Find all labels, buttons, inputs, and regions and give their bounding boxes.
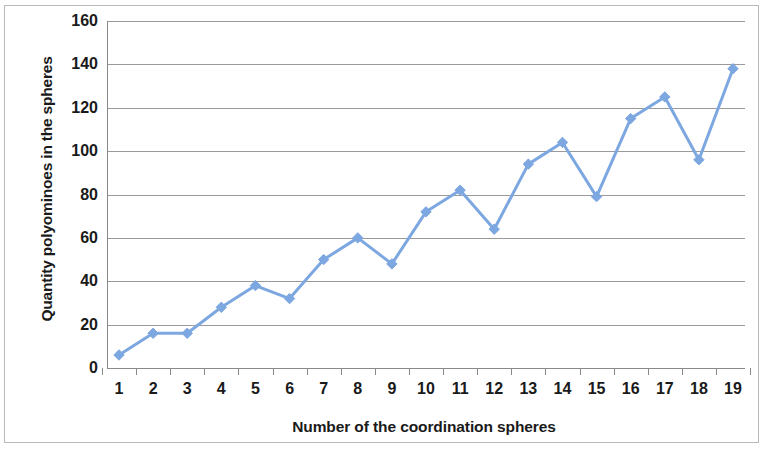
x-tick-10 (409, 368, 410, 375)
y-tick-label-120: 120 (40, 99, 98, 117)
y-tick-label-20: 20 (40, 316, 98, 334)
x-tick-15 (580, 368, 581, 375)
x-tick-label-19: 19 (713, 380, 753, 398)
x-tick-1 (102, 368, 103, 375)
x-axis-tick-labels: 12345678910111213141516171819 (107, 380, 745, 404)
y-tick-label-100: 100 (40, 142, 98, 160)
y-tick-label-40: 40 (40, 272, 98, 290)
y-axis-tick-labels: 020406080100120140160 (36, 21, 98, 368)
y-tick-label-60: 60 (40, 229, 98, 247)
y-tick-label-140: 140 (40, 55, 98, 73)
chart-figure: Quantity polyominoes in the spheres 0204… (0, 0, 766, 452)
x-tick-7 (307, 368, 308, 375)
x-tick-8 (341, 368, 342, 375)
y-tick-label-0: 0 (40, 359, 98, 377)
x-tick-3 (170, 368, 171, 375)
data-series-line (107, 21, 745, 368)
x-tick-17 (648, 368, 649, 375)
x-tick-13 (511, 368, 512, 375)
x-tick-19 (716, 368, 717, 375)
x-tick-4 (204, 368, 205, 375)
x-tick-9 (375, 368, 376, 375)
x-axis-ticks (107, 368, 745, 376)
y-tick-label-80: 80 (40, 186, 98, 204)
x-tick-12 (477, 368, 478, 375)
x-tick-2 (136, 368, 137, 375)
x-tick-end (750, 368, 751, 375)
x-tick-11 (443, 368, 444, 375)
x-tick-18 (682, 368, 683, 375)
data-point-marker (728, 64, 738, 74)
x-tick-16 (614, 368, 615, 375)
x-tick-14 (545, 368, 546, 375)
x-axis-title: Number of the coordination spheres (100, 418, 748, 436)
x-tick-5 (238, 368, 239, 375)
y-tick-label-160: 160 (40, 12, 98, 30)
x-tick-6 (273, 368, 274, 375)
